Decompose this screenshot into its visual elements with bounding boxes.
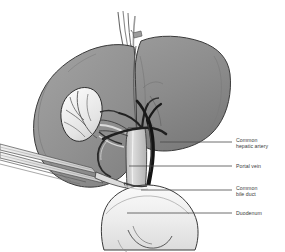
- right-hepatic-lobe: [134, 36, 231, 151]
- figure-canvas: Common hepatic artery Portal vein Common…: [0, 0, 285, 252]
- callout-label-common-hepatic-artery: Common hepatic artery: [236, 137, 268, 149]
- callout-label-portal-vein: Portal vein: [236, 163, 261, 169]
- duodenum: [101, 185, 198, 252]
- callout-label-duodenum: Duodenum: [236, 210, 262, 216]
- callout-label-common-bile-duct: Common bile duct: [236, 185, 257, 197]
